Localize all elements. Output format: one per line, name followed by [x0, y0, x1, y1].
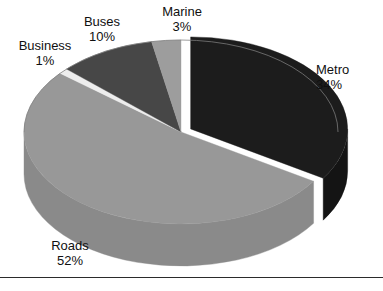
slice-label-roads-percent: 52%	[30, 253, 110, 268]
slice-label-buses: Buses 10%	[62, 14, 142, 44]
slice-label-marine-percent: 3%	[140, 19, 224, 34]
slice-label-buses-name: Buses	[62, 14, 142, 29]
slice-label-buses-percent: 10%	[62, 29, 142, 44]
slice-label-metro-name: Metro	[316, 62, 382, 77]
pie-slices-group	[24, 37, 348, 266]
footer-divider	[0, 277, 383, 278]
slice-label-roads: Roads 52%	[30, 238, 110, 268]
slice-label-marine-name: Marine	[140, 4, 224, 19]
slice-label-roads-name: Roads	[30, 238, 110, 253]
slice-label-metro-percent: 34%	[316, 77, 382, 92]
slice-label-business-percent: 1%	[2, 53, 88, 68]
pie-chart-figure: Business 1% Buses 10% Marine 3% Metro 34…	[0, 0, 383, 278]
slice-label-marine: Marine 3%	[140, 4, 224, 34]
slice-label-metro: Metro 34%	[316, 62, 382, 92]
pie-chart-page: Business 1% Buses 10% Marine 3% Metro 34…	[0, 0, 383, 291]
